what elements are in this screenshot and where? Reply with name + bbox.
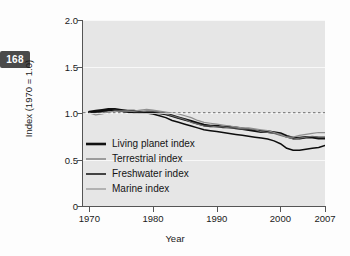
y-tick-label: 0.5 [50,154,78,165]
y-tick-mark [77,67,82,68]
y-tick-mark [77,20,82,21]
x-tick-mark [217,207,218,212]
legend-item[interactable]: Terrestrial index [86,151,236,166]
x-tick-label: 2000 [270,213,291,224]
x-tick-mark [280,207,281,212]
y-tick-mark [77,113,82,114]
y-axis-tick-labels: 2.01.51.00.50 [50,0,78,256]
y-tick-label: 2.0 [50,15,78,26]
legend-item[interactable]: Freshwater index [86,166,236,181]
x-tick-label: 1970 [79,213,100,224]
legend-line-icon [86,170,106,178]
figure-container: 168 Index (1970 = 1.0) 2.01.51.00.50 197… [0,0,350,256]
y-tick-label: 0 [50,201,78,212]
x-tick-mark [153,207,154,212]
x-axis-title: Year [0,233,350,244]
y-tick-label: 1.5 [50,61,78,72]
gridline-horizontal [83,113,325,114]
x-tick-label: 1990 [206,213,227,224]
chart-legend: Living planet indexTerrestrial indexFres… [86,136,236,196]
legend-item-label: Living planet index [112,139,195,149]
y-tick-label: 1.0 [50,108,78,119]
gridline-horizontal [83,67,325,68]
y-axis-title: Index (1970 = 1.0) [23,24,34,174]
legend-item[interactable]: Marine index [86,181,236,196]
legend-line-icon [86,185,106,193]
x-tick-label: 1980 [142,213,163,224]
gridline-horizontal [83,20,325,21]
x-tick-label: 2007 [314,213,335,224]
legend-item-label: Marine index [112,184,169,194]
legend-item-label: Freshwater index [112,169,189,179]
legend-item-label: Terrestrial index [112,154,183,164]
y-tick-mark [77,160,82,161]
x-axis-spine [82,206,326,207]
x-tick-mark [325,207,326,212]
legend-item[interactable]: Living planet index [86,136,236,151]
y-tick-mark [77,206,82,207]
legend-line-icon [86,140,106,148]
x-tick-mark [89,207,90,212]
legend-line-icon [86,155,106,163]
